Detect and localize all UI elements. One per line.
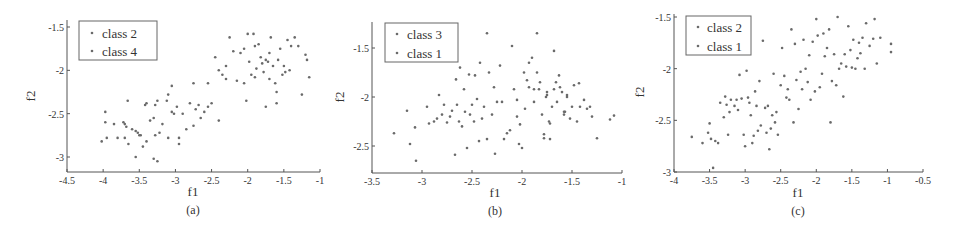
data-point	[127, 143, 130, 146]
data-point	[393, 132, 396, 135]
data-point	[747, 96, 750, 99]
data-point	[139, 134, 142, 137]
data-point	[221, 73, 224, 76]
data-point	[822, 32, 825, 35]
data-point	[591, 115, 594, 118]
data-point	[890, 51, 893, 54]
data-point	[890, 43, 893, 46]
data-point	[555, 81, 558, 84]
data-point	[228, 36, 231, 39]
data-point	[479, 61, 482, 64]
data-point	[451, 109, 454, 112]
legend-marker-icon	[697, 26, 700, 29]
data-point	[760, 124, 763, 127]
data-point	[493, 86, 496, 89]
y-tick-label: -2	[663, 64, 671, 75]
data-point	[173, 112, 176, 115]
data-point	[730, 98, 733, 101]
data-point	[284, 71, 287, 74]
data-point	[243, 82, 246, 85]
data-point	[754, 90, 757, 93]
data-point	[767, 105, 770, 108]
data-point	[262, 71, 265, 74]
data-point	[466, 147, 469, 150]
legend: class 2 class 1	[686, 16, 751, 55]
x-tick-label: -1.5	[844, 175, 860, 186]
data-point	[783, 75, 786, 78]
x-tick-label: -0.5	[915, 175, 931, 186]
data-point	[752, 135, 755, 138]
data-point	[267, 60, 270, 63]
data-point	[250, 73, 253, 76]
data-point	[145, 140, 148, 143]
legend-label: class 4	[102, 44, 138, 59]
data-point	[691, 136, 694, 139]
data-point	[476, 98, 479, 101]
data-point	[306, 59, 309, 62]
data-point	[277, 59, 280, 62]
data-point	[750, 114, 753, 117]
data-point	[751, 142, 754, 145]
data-point	[859, 52, 862, 55]
data-point	[275, 102, 278, 105]
data-point	[268, 78, 271, 81]
data-point	[821, 73, 824, 76]
data-point	[596, 137, 599, 140]
data-point	[872, 37, 875, 40]
data-point	[406, 109, 409, 112]
x-tick-label: -3	[741, 175, 749, 186]
y-tick-label: -1.5	[48, 22, 64, 33]
x-tick-label: -4.5	[59, 175, 75, 186]
data-point	[521, 147, 524, 150]
data-point	[194, 108, 197, 111]
data-point	[491, 113, 494, 116]
data-point	[541, 113, 544, 116]
data-point	[717, 142, 720, 145]
x-axis-label: f1	[188, 184, 199, 199]
data-point	[494, 153, 497, 156]
data-point	[468, 73, 471, 76]
data-point	[774, 121, 777, 124]
data-point	[456, 104, 459, 107]
data-point	[488, 71, 491, 74]
data-point	[842, 95, 845, 98]
data-point	[167, 137, 170, 140]
data-point	[268, 52, 271, 55]
data-point	[737, 109, 740, 112]
data-point	[768, 148, 771, 151]
data-point	[851, 66, 854, 69]
data-point	[131, 128, 134, 131]
data-point	[210, 102, 213, 105]
data-point	[518, 143, 521, 146]
data-point	[799, 71, 802, 74]
data-point	[771, 114, 774, 117]
data-point	[290, 45, 293, 48]
data-point	[286, 39, 289, 42]
data-point	[613, 114, 616, 117]
data-point	[519, 123, 522, 126]
data-point	[845, 65, 848, 68]
data-point	[770, 127, 773, 130]
data-point	[246, 33, 249, 36]
data-point	[225, 65, 228, 68]
data-point	[243, 47, 246, 50]
data-point	[838, 67, 841, 70]
data-point	[124, 123, 127, 126]
data-point	[265, 105, 268, 108]
data-point	[785, 96, 788, 99]
data-point	[106, 137, 109, 140]
data-point	[496, 101, 499, 104]
data-point	[563, 110, 566, 113]
data-point	[719, 102, 722, 105]
data-point	[835, 84, 838, 87]
data-point	[178, 137, 181, 140]
data-point	[714, 140, 717, 143]
data-point	[824, 55, 827, 58]
x-tick-label: -1	[618, 176, 626, 187]
panel-caption: (c)	[791, 204, 804, 218]
data-point	[735, 98, 738, 101]
data-point	[414, 126, 417, 129]
data-point	[436, 117, 439, 120]
data-point	[156, 160, 159, 163]
data-point	[843, 53, 846, 56]
